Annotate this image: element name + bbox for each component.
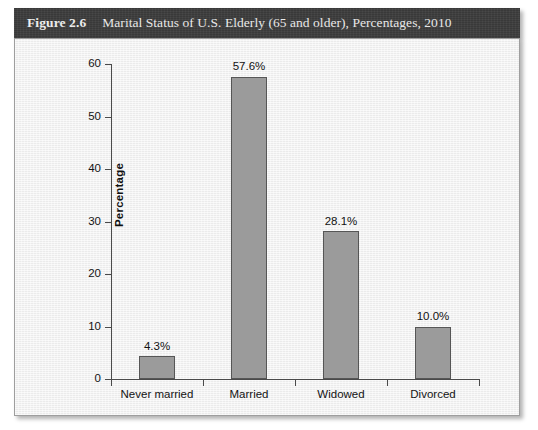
y-axis-tick-label: 60	[15, 58, 101, 70]
x-axis-tick	[203, 380, 204, 386]
x-axis-tick	[295, 380, 296, 386]
chart-panel: Percentage 0102030405060 Never marriedMa…	[14, 38, 520, 416]
x-axis-label-widowed: Widowed	[295, 389, 387, 401]
x-axis-tick	[111, 380, 112, 386]
figure-container: Figure 2.6 Marital Status of U.S. Elderl…	[0, 0, 538, 430]
figure-title: Marital Status of U.S. Elderly (65 and o…	[102, 15, 451, 31]
y-axis-tick-label: 50	[15, 111, 101, 123]
y-axis-tick-label: 20	[15, 268, 101, 280]
x-axis-tick	[387, 380, 388, 386]
bar-divorced: 10.0%	[415, 327, 451, 380]
bar-widowed: 28.1%	[323, 231, 359, 379]
plot-area: 4.3%57.6%28.1%10.0%	[111, 64, 479, 379]
bar-value-label: 57.6%	[233, 61, 266, 73]
bar-value-label: 4.3%	[144, 341, 170, 353]
bar-married: 57.6%	[231, 77, 267, 379]
x-axis-label-married: Married	[203, 389, 295, 401]
bar-value-label: 28.1%	[325, 216, 358, 228]
y-axis-tick-label: 0	[15, 373, 101, 385]
bar-never-married: 4.3%	[139, 356, 175, 379]
x-axis-tick	[479, 380, 480, 386]
y-axis-tick-label: 30	[15, 216, 101, 228]
figure-caption-bar: Figure 2.6 Marital Status of U.S. Elderl…	[14, 8, 520, 38]
x-axis-label-never-married: Never married	[111, 389, 203, 401]
x-axis-label-divorced: Divorced	[387, 389, 479, 401]
y-axis-tick-label: 40	[15, 163, 101, 175]
figure-number-label: Figure 2.6	[27, 15, 86, 31]
bar-value-label: 10.0%	[417, 311, 450, 323]
y-axis-tick-label: 10	[15, 321, 101, 333]
